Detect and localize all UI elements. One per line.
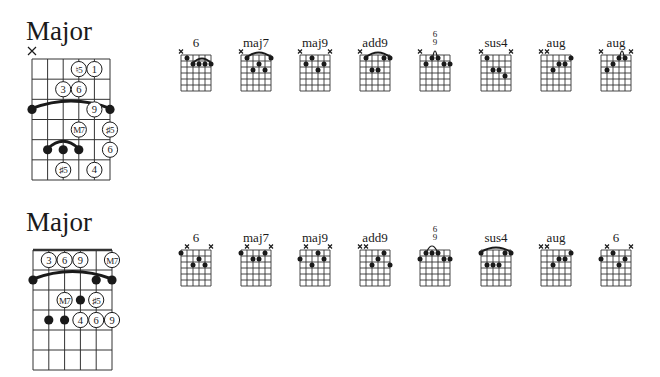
finger-dot	[239, 251, 244, 256]
finger-dot	[245, 56, 250, 61]
muted-string-icon	[304, 245, 308, 249]
finger-dot	[191, 263, 196, 268]
muted-string-icon	[629, 245, 633, 249]
finger-dot	[76, 295, 85, 304]
finger-dot	[503, 74, 508, 79]
interval-label: 1	[92, 64, 97, 75]
finger-dot	[60, 315, 69, 324]
finger-dot	[551, 68, 556, 73]
finger-dot	[310, 56, 315, 61]
finger-dot	[557, 257, 562, 262]
finger-dot	[257, 257, 262, 262]
big-fretboard-diagram: ♮51369M7♯56♯54	[27, 47, 117, 180]
chord-diagram-sus4	[479, 248, 514, 287]
interval-label: M7	[59, 296, 71, 306]
chord-diagram-maj9	[298, 245, 333, 287]
interval-label: 9	[109, 315, 114, 326]
interval-label: 3	[61, 84, 66, 95]
chord-diagram-6-9	[418, 50, 453, 92]
muted-string-icon	[358, 50, 362, 54]
finger-dot	[388, 56, 393, 61]
finger-dot	[304, 62, 309, 67]
finger-dot	[424, 251, 429, 256]
interval-label: 4	[78, 315, 84, 326]
muted-string-icon	[629, 50, 633, 54]
finger-dot	[491, 68, 496, 73]
finger-dot	[316, 68, 321, 73]
interval-label: 9	[92, 104, 97, 115]
finger-dot	[316, 251, 321, 256]
finger-dot	[448, 257, 453, 262]
muted-string-icon	[179, 50, 183, 54]
finger-dot	[617, 263, 622, 268]
finger-dot	[551, 263, 556, 268]
finger-dot	[563, 257, 568, 262]
finger-dot	[43, 145, 52, 154]
interval-label: 6	[62, 255, 67, 266]
interval-label: 6	[94, 315, 99, 326]
finger-dot	[257, 62, 262, 67]
finger-dot	[485, 263, 490, 268]
interval-label: ♯5	[106, 125, 115, 135]
finger-dot	[509, 251, 514, 256]
interval-label: ♮5	[76, 65, 84, 75]
finger-dot	[563, 62, 568, 67]
finger-dot	[382, 56, 387, 61]
muted-string-icon	[479, 50, 483, 54]
muted-string-icon	[605, 245, 609, 249]
muted-string-icon	[509, 50, 513, 54]
chord-diagram-add9	[358, 245, 393, 287]
finger-dot	[503, 251, 508, 256]
finger-dot	[251, 257, 256, 262]
muted-string-icon	[418, 50, 422, 54]
muted-string-icon	[539, 50, 543, 54]
muted-string-icon	[545, 50, 549, 54]
finger-dot	[185, 56, 190, 61]
interval-label: ♯5	[59, 165, 68, 175]
finger-dot	[497, 68, 502, 73]
finger-dot	[436, 251, 441, 256]
finger-dot	[370, 263, 375, 268]
finger-dot	[376, 68, 381, 73]
interval-label: 6	[107, 144, 112, 155]
finger-dot	[27, 105, 36, 114]
muted-string-icon	[364, 245, 368, 249]
chord-diagram-6	[179, 50, 214, 92]
finger-dot	[44, 315, 53, 324]
chord-diagram-maj9	[298, 50, 332, 92]
interval-label: 4	[92, 164, 98, 175]
finger-dot	[107, 275, 116, 284]
finger-dot	[310, 263, 315, 268]
muted-string-icon	[28, 47, 36, 55]
finger-dot	[485, 56, 490, 61]
finger-dot	[623, 257, 628, 262]
muted-string-icon	[328, 50, 332, 54]
chord-diagram-aug	[599, 50, 633, 92]
finger-dot	[197, 257, 202, 262]
interval-label: 3	[46, 255, 51, 266]
finger-dot	[203, 263, 208, 268]
finger-dot	[92, 275, 101, 284]
finger-dot	[251, 68, 256, 73]
muted-string-icon	[245, 245, 249, 249]
chord-diagram-6	[599, 245, 634, 287]
finger-dot	[364, 56, 369, 61]
finger-dot	[370, 68, 375, 73]
finger-dot	[388, 263, 393, 268]
muted-string-icon	[209, 245, 213, 249]
muted-string-icon	[358, 245, 362, 249]
finger-dot	[442, 62, 447, 67]
muted-string-icon	[298, 50, 302, 54]
finger-dot	[74, 145, 83, 154]
interval-label: ♯5	[92, 296, 101, 306]
big-fretboard-diagram: 369M7M7♯5469	[28, 250, 119, 370]
chord-diagram-maj7	[239, 50, 274, 92]
interval-label: 9	[78, 255, 83, 266]
chord-diagram-add9	[358, 50, 393, 92]
finger-dot	[569, 251, 574, 256]
chord-diagram-6-9	[418, 246, 453, 286]
finger-dot	[448, 62, 453, 67]
finger-dot	[599, 257, 604, 262]
chord-diagram-6	[179, 245, 214, 287]
finger-dot	[322, 62, 327, 67]
